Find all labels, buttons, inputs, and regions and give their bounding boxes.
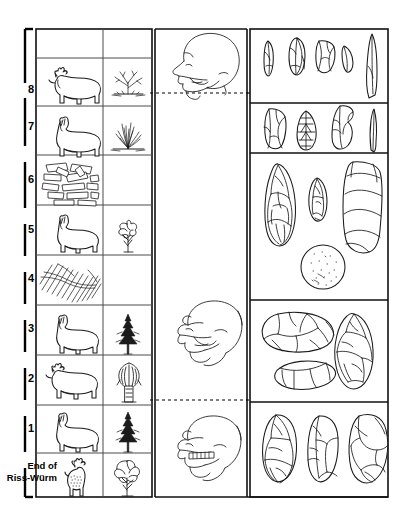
axis-tick-label-3: 3 [28, 322, 34, 334]
chart-svg: 8 7 6 5 4 3 2 1 End of Riss-Würm [0, 0, 411, 515]
end-label-line1: End of [27, 460, 57, 471]
axis-tick-label-8: 8 [28, 83, 34, 95]
axis-tick-label-4: 4 [28, 272, 35, 284]
axis-tick-label-2: 2 [28, 372, 34, 384]
end-label-line2: Riss-Würm [7, 472, 57, 483]
tool-panel-5 [263, 415, 388, 483]
axis-tick-label-1: 1 [28, 422, 34, 434]
axis-tick-label-5: 5 [28, 223, 34, 235]
axis-tick-label-6: 6 [28, 173, 34, 185]
figure-root: 8 7 6 5 4 3 2 1 End of Riss-Würm [0, 0, 411, 515]
axis-tick-label-7: 7 [28, 120, 34, 132]
